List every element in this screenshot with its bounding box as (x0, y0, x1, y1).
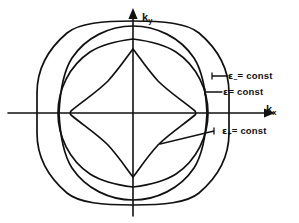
label-epsilon-plus-equals: = const (232, 125, 267, 136)
label-epsilon-minus: ε–= const (228, 71, 273, 82)
ky-axis-arrowhead (128, 8, 137, 19)
label-epsilon-minus-equals: = const (238, 70, 273, 81)
kx-axis-label-subscript: x (272, 108, 276, 117)
axes-group (8, 8, 275, 216)
ky-axis-label: ky (142, 12, 152, 24)
label-epsilon-plus: ε+= const (222, 126, 267, 137)
leader-epsilon-minus (212, 73, 228, 79)
contour-plot-svg (0, 0, 299, 223)
kx-axis-label: kx (266, 104, 276, 116)
label-epsilon-equals: = const (229, 86, 264, 97)
figure-root: ky kx ε–= const ε= const ε+= const (0, 0, 299, 223)
ky-axis-label-subscript: y (148, 16, 152, 25)
leader-epsilon (205, 89, 222, 95)
label-epsilon: ε= const (223, 87, 263, 98)
